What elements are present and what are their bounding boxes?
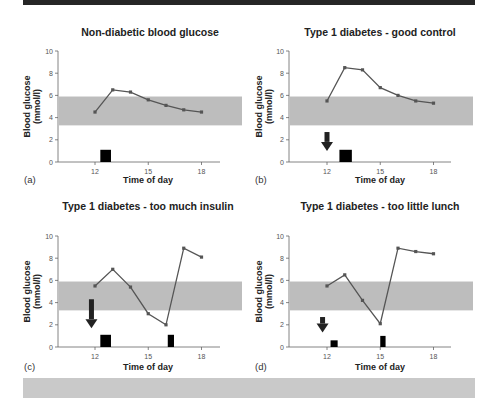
y-tick-label: 6 <box>280 92 284 99</box>
data-point <box>361 68 364 71</box>
data-point <box>343 66 346 69</box>
meal-bar <box>380 336 385 347</box>
x-tick-label: 15 <box>376 353 384 360</box>
data-point <box>129 90 132 93</box>
chart-title: Type 1 diabetes - good control <box>304 26 456 38</box>
data-point <box>396 94 399 97</box>
data-point <box>164 323 167 326</box>
data-point <box>361 299 364 302</box>
y-tick-label: 10 <box>45 233 53 240</box>
panel-label: (d) <box>255 361 267 372</box>
meal-bar <box>168 335 174 347</box>
data-point <box>343 273 346 276</box>
y-axis-label-line2: (mmol/l) <box>264 274 274 309</box>
chart-panel-b: 0246810121518Type 1 diabetes - good cont… <box>254 26 473 185</box>
y-tick-label: 4 <box>280 114 284 121</box>
y-tick-label: 0 <box>49 344 53 351</box>
y-tick-label: 8 <box>49 70 53 77</box>
meal-bar <box>100 335 111 347</box>
chart-panel-c: 0246810121518Type 1 diabetes - too much … <box>22 200 242 372</box>
insulin-arrow-icon <box>85 319 97 328</box>
y-axis-label: Blood glucose(mmol/l) <box>22 75 42 137</box>
y-tick-label: 2 <box>49 321 53 328</box>
data-point <box>432 252 435 255</box>
y-tick-label: 10 <box>276 48 284 55</box>
x-tick-label: 12 <box>91 168 99 175</box>
normal-range-band <box>290 282 473 311</box>
x-tick-label: 15 <box>376 168 384 175</box>
x-tick-label: 18 <box>198 353 206 360</box>
x-tick-label: 15 <box>144 353 152 360</box>
data-point <box>182 108 185 111</box>
insulin-arrow-icon <box>317 324 329 333</box>
data-point <box>164 104 167 107</box>
x-axis-label: Time of day <box>355 362 405 372</box>
y-tick-label: 6 <box>49 277 53 284</box>
x-tick-label: 12 <box>323 168 331 175</box>
data-point <box>93 110 96 113</box>
y-tick-label: 4 <box>280 299 284 306</box>
x-axis-label: Time of day <box>355 175 405 185</box>
meal-bar <box>100 150 111 162</box>
y-axis-label-line1: Blood glucose <box>254 260 264 322</box>
normal-range-band <box>290 97 473 126</box>
x-axis-label: Time of day <box>123 362 173 372</box>
y-tick-label: 0 <box>280 344 284 351</box>
y-tick-label: 6 <box>280 277 284 284</box>
chart-title: Non-diabetic blood glucose <box>81 26 219 38</box>
x-tick-label: 12 <box>323 353 331 360</box>
insulin-arrow-shaft <box>89 299 94 319</box>
data-point <box>432 102 435 105</box>
data-point <box>379 86 382 89</box>
chart-panel-d: 0246810121518Type 1 diabetes - too littl… <box>254 200 473 372</box>
y-axis-label-line1: Blood glucose <box>22 75 32 137</box>
data-point <box>200 255 203 258</box>
data-point <box>414 250 417 253</box>
panel-label: (c) <box>24 361 35 372</box>
insulin-arrow-icon <box>321 142 333 151</box>
y-tick-label: 0 <box>280 159 284 166</box>
y-axis-label: Blood glucose(mmol/l) <box>254 260 274 322</box>
y-tick-label: 4 <box>49 299 53 306</box>
insulin-arrow-shaft <box>320 317 325 324</box>
y-tick-label: 2 <box>280 321 284 328</box>
y-tick-label: 8 <box>280 255 284 262</box>
x-axis-label: Time of day <box>123 175 173 185</box>
data-point <box>147 312 150 315</box>
x-tick-label: 18 <box>430 353 438 360</box>
data-point <box>325 284 328 287</box>
data-point <box>147 98 150 101</box>
y-tick-label: 0 <box>49 159 53 166</box>
data-point <box>111 88 114 91</box>
panel-label: (b) <box>255 174 267 185</box>
chart-panel-a: 0246810121518Non-diabetic blood glucoseT… <box>22 26 242 185</box>
meal-bar <box>331 340 338 347</box>
data-point <box>396 247 399 250</box>
y-tick-label: 8 <box>280 70 284 77</box>
chart-title: Type 1 diabetes - too little lunch <box>300 200 459 212</box>
x-tick-label: 12 <box>91 353 99 360</box>
y-axis-label-line2: (mmol/l) <box>32 89 42 124</box>
data-point <box>111 268 114 271</box>
data-point <box>325 99 328 102</box>
meal-bar <box>339 150 351 162</box>
y-tick-label: 2 <box>49 136 53 143</box>
y-axis-label-line2: (mmol/l) <box>264 89 274 124</box>
chart-title: Type 1 diabetes - too much insulin <box>62 200 233 212</box>
data-point <box>129 285 132 288</box>
y-tick-label: 6 <box>49 92 53 99</box>
y-axis-label-line1: Blood glucose <box>22 260 32 322</box>
data-point <box>379 322 382 325</box>
insulin-arrow-shaft <box>325 132 330 142</box>
normal-range-band <box>59 282 242 311</box>
x-tick-label: 15 <box>144 168 152 175</box>
panel-label: (a) <box>24 174 36 185</box>
x-tick-label: 18 <box>198 168 206 175</box>
data-point <box>200 110 203 113</box>
data-point <box>182 247 185 250</box>
data-point <box>414 99 417 102</box>
y-tick-label: 8 <box>49 255 53 262</box>
figure-canvas: 0246810121518Non-diabetic blood glucoseT… <box>0 0 497 398</box>
y-axis-label: Blood glucose(mmol/l) <box>22 260 42 322</box>
y-tick-label: 10 <box>45 48 53 55</box>
